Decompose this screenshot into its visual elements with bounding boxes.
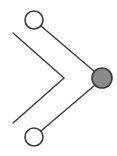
- node-bottom[interactable]: [25, 128, 43, 146]
- node-right-selected[interactable]: [92, 68, 112, 88]
- diagram-canvas: [0, 0, 117, 156]
- node-top[interactable]: [25, 11, 43, 29]
- diagram-svg: [0, 0, 117, 156]
